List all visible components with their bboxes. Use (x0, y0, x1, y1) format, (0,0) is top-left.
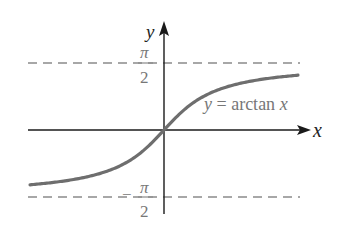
arctan-graph: y x π 2 − π 2 y = arctan x (0, 0, 343, 226)
lower-asymptote-sign: − (122, 185, 132, 204)
curve-label-eq: = arctan (212, 94, 280, 114)
curve-label-y: y (202, 94, 212, 114)
curve-label-x: x (279, 94, 288, 114)
plot-canvas: y x π 2 − π 2 y = arctan x (0, 0, 343, 226)
lower-asymptote-denominator: 2 (140, 202, 149, 221)
y-axis-label: y (144, 21, 155, 42)
upper-asymptote-numerator: π (140, 43, 149, 62)
upper-asymptote-denominator: 2 (140, 68, 149, 87)
x-axis-label: x (312, 119, 322, 141)
lower-asymptote-numerator: π (140, 178, 149, 197)
curve-label: y = arctan x (202, 94, 288, 114)
